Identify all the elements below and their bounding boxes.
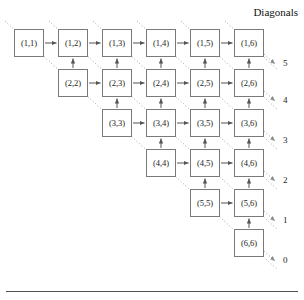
cell-box: (2,3) — [102, 69, 132, 97]
cell-box: (1,2) — [58, 29, 88, 57]
cell-box: (1,1) — [14, 29, 44, 57]
diagonal-exit-arrow — [264, 91, 275, 101]
cell-box: (4,6) — [234, 149, 264, 177]
figure-canvas: (1,1)(1,2)(1,3)(1,4)(1,5)(1,6)(2,2)(2,3)… — [0, 0, 304, 300]
cell-box: (3,6) — [234, 109, 264, 137]
cell-box: (1,4) — [146, 29, 176, 57]
cell-box: (4,4) — [146, 149, 176, 177]
cell-box: (4,5) — [190, 149, 220, 177]
cell-box: (1,6) — [234, 29, 264, 57]
cell-box: (3,5) — [190, 109, 220, 137]
cell-box: (6,6) — [234, 229, 264, 257]
diagonal-index-label: 2 — [283, 175, 288, 185]
diagonal-exit-arrow — [264, 211, 275, 221]
cell-box: (2,4) — [146, 69, 176, 97]
diagonal-exit-arrow — [264, 171, 275, 181]
diagonal-index-label: 3 — [283, 135, 288, 145]
diagonals-title: Diagonals — [253, 6, 298, 18]
diagonal-exit-arrow — [264, 131, 275, 141]
diagonal-index-label: 0 — [283, 255, 288, 265]
cell-box: (2,6) — [234, 69, 264, 97]
diagonal-index-label: 1 — [283, 215, 288, 225]
bottom-divider — [6, 291, 298, 292]
cell-box: (1,5) — [190, 29, 220, 57]
cell-box: (5,6) — [234, 189, 264, 217]
diagonal-exit-arrow — [264, 54, 275, 64]
diagonal-exit-arrows — [264, 54, 275, 261]
cell-box: (2,2) — [58, 69, 88, 97]
diagonal-index-label: 4 — [283, 95, 288, 105]
cell-box: (1,3) — [102, 29, 132, 57]
diagonal-exit-arrow — [264, 251, 275, 261]
diagonal-index-label: 5 — [283, 58, 288, 68]
cell-box: (2,5) — [190, 69, 220, 97]
cell-box: (5,5) — [190, 189, 220, 217]
cell-box: (3,3) — [102, 109, 132, 137]
cell-box: (3,4) — [146, 109, 176, 137]
